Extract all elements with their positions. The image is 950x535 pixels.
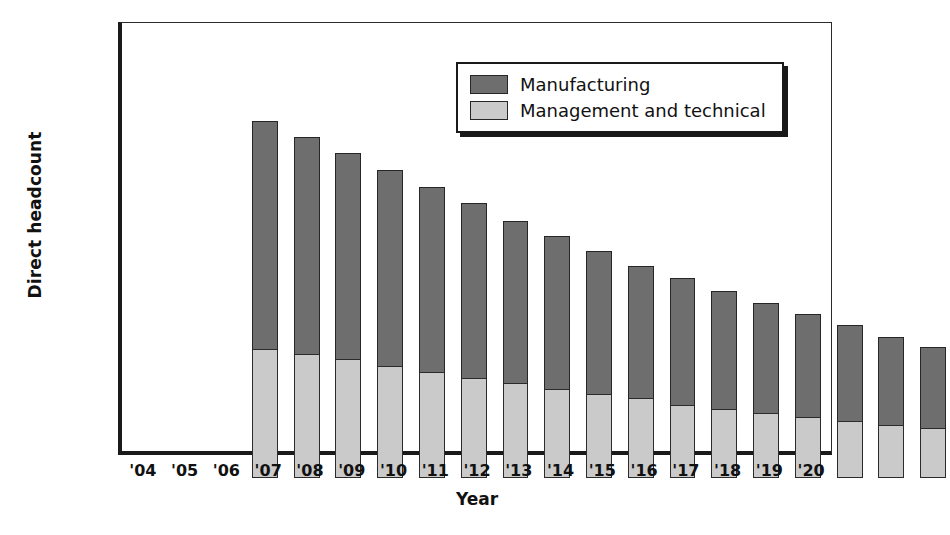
bar-slot [369,45,411,478]
stacked-bar[interactable] [544,236,570,478]
x-axis-tick-label: '08 [289,461,331,480]
bar-segment-management-and-technical[interactable] [837,421,863,478]
bar-segment-manufacturing[interactable] [544,236,570,389]
x-axis-tick-label: '07 [247,461,289,480]
bar-segment-manufacturing[interactable] [920,347,946,428]
x-axis-tick-label: '12 [456,461,498,480]
x-axis-tick-label: '15 [581,461,623,480]
legend-item[interactable]: Manufacturing [470,71,766,97]
x-axis-tick-label: '20 [790,461,832,480]
x-axis-title: Year [122,489,832,509]
stacked-bar[interactable] [711,291,737,478]
legend-label: Manufacturing [520,74,650,95]
x-axis-tick-labels: '04'05'06'07'08'09'10'11'12'13'14'15'16'… [122,461,832,480]
stacked-bar[interactable] [878,337,904,478]
stacked-bar[interactable] [503,221,529,478]
stacked-bar[interactable] [419,187,445,478]
x-axis-tick-label: '04 [122,461,164,480]
stacked-bar[interactable] [753,303,779,478]
y-axis-title: Direct headcount [25,85,45,345]
bar-segment-manufacturing[interactable] [461,203,487,378]
bar-slot [829,45,871,478]
x-axis-tick-label: '13 [498,461,540,480]
x-axis-tick-label: '19 [748,461,790,480]
x-axis-tick-label: '06 [206,461,248,480]
x-axis-tick-label: '05 [164,461,206,480]
bar-segment-manufacturing[interactable] [419,187,445,372]
bar-slot [244,45,286,478]
bar-segment-manufacturing[interactable] [795,314,821,417]
bar-segment-manufacturing[interactable] [711,291,737,409]
stacked-bar[interactable] [586,251,612,478]
stacked-bar[interactable] [628,266,654,478]
bar-segment-manufacturing[interactable] [753,303,779,413]
bar-segment-manufacturing[interactable] [252,121,278,350]
legend-label: Management and technical [520,100,766,121]
stacked-bar[interactable] [294,137,320,478]
chart-legend: ManufacturingManagement and technical [456,62,784,133]
stacked-bar[interactable] [335,153,361,478]
bar-segment-manufacturing[interactable] [628,266,654,399]
bar-segment-manufacturing[interactable] [377,170,403,366]
legend-item[interactable]: Management and technical [470,97,766,123]
bar-segment-manufacturing[interactable] [335,153,361,359]
x-axis-tick-label: '09 [331,461,373,480]
x-axis-tick-label: '14 [540,461,582,480]
stacked-bar[interactable] [377,170,403,479]
bar-segment-management-and-technical[interactable] [294,354,320,478]
x-axis-tick-label: '17 [665,461,707,480]
legend-swatch [470,101,508,120]
bar-segment-manufacturing[interactable] [586,251,612,394]
bar-segment-manufacturing[interactable] [878,337,904,425]
stacked-bar[interactable] [837,325,863,478]
bar-slot [286,45,328,478]
x-axis-tick-label: '16 [623,461,665,480]
bar-segment-management-and-technical[interactable] [878,425,904,478]
bar-slot [787,45,829,478]
bar-segment-manufacturing[interactable] [503,221,529,383]
bar-segment-manufacturing[interactable] [837,325,863,421]
x-axis-tick-label: '18 [707,461,749,480]
bar-segment-management-and-technical[interactable] [252,349,278,478]
stacked-bar[interactable] [670,278,696,478]
stacked-bar[interactable] [461,203,487,478]
stacked-bar[interactable] [795,314,821,478]
bar-segment-manufacturing[interactable] [670,278,696,405]
x-axis-tick-label: '11 [414,461,456,480]
stacked-bar[interactable] [252,121,278,478]
x-axis-tick-label: '10 [373,461,415,480]
bar-segment-management-and-technical[interactable] [920,428,946,478]
bar-slot [912,45,950,478]
bar-slot [411,45,453,478]
stacked-bar[interactable] [920,347,946,478]
bar-slot [328,45,370,478]
bar-slot [870,45,912,478]
legend-swatch [470,75,508,94]
bar-segment-manufacturing[interactable] [294,137,320,354]
